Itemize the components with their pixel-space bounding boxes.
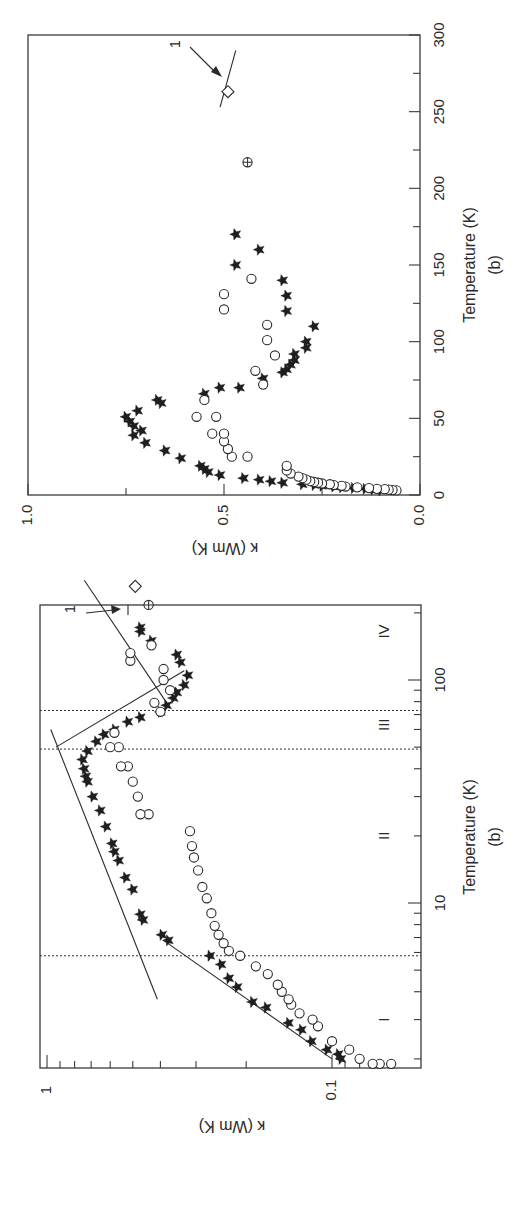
y-axis-label: κ (Wm K) <box>192 540 259 557</box>
star-marker <box>82 745 93 756</box>
annotation-label: 1 <box>62 605 78 613</box>
star-marker <box>230 229 241 240</box>
star-marker <box>308 321 319 332</box>
annotation-arrow <box>190 47 216 73</box>
log-plot: 101000.11 IIIIIIIV 1 Temperature (K) (b)… <box>37 580 503 1135</box>
region-label: III <box>375 718 392 731</box>
circle-marker <box>308 1015 317 1024</box>
temperature-tick-label: 0 <box>430 491 447 499</box>
circle-marker <box>387 1059 396 1068</box>
figure: 0501001502002503000.00.51.0 1 Temperatur… <box>0 0 512 1208</box>
reference-line <box>220 50 236 107</box>
circle-marker <box>128 777 137 786</box>
circle-marker <box>210 921 219 930</box>
circle-marker <box>147 641 156 650</box>
region-label: II <box>375 832 392 840</box>
circle-marker <box>165 686 174 695</box>
star-marker <box>281 290 292 301</box>
star-marker <box>127 884 138 895</box>
region-label: I <box>375 1018 392 1022</box>
star-marker <box>281 305 292 316</box>
circle-marker <box>126 649 135 658</box>
temperature-tick-label: 10 <box>431 895 448 912</box>
tick-labels: 101000.11 <box>37 667 448 1100</box>
circle-marker <box>345 1045 354 1054</box>
x-axis-label: Temperature (K) <box>461 207 478 323</box>
temperature-tick-label: 250 <box>430 99 447 124</box>
circle-marker <box>247 274 256 283</box>
circle-marker <box>150 698 159 707</box>
region-label: IV <box>375 624 392 638</box>
data-points <box>77 580 396 1068</box>
star-marker <box>253 244 264 255</box>
circle-marker <box>364 484 373 493</box>
circle-marker <box>156 707 165 716</box>
fit-lines <box>51 580 332 1059</box>
annotation-label: 1 <box>167 40 183 48</box>
fit-line <box>51 729 158 999</box>
star-marker <box>253 474 264 485</box>
circle-marker <box>207 909 216 918</box>
circle-marker <box>110 728 119 737</box>
star-marker <box>230 259 241 270</box>
circle-marker <box>208 429 217 438</box>
circle-marker <box>355 1054 364 1063</box>
star-marker <box>135 712 146 724</box>
circle-marker <box>194 866 203 875</box>
star-marker <box>122 716 133 727</box>
circle-marker <box>263 969 272 978</box>
star-marker <box>87 791 98 802</box>
axis-ticks <box>47 613 421 1068</box>
temperature-tick-label: 50 <box>430 410 447 427</box>
circle-marker <box>251 366 260 375</box>
circle-marker <box>368 1059 377 1068</box>
circle-marker <box>273 980 282 989</box>
y-axis-label: κ (Wm K) <box>199 1118 266 1135</box>
kappa-tick-label: 0.5 <box>214 505 231 526</box>
star-marker <box>94 805 105 816</box>
circle-marker <box>327 1037 336 1046</box>
star-marker <box>223 973 234 984</box>
circle-marker <box>116 762 125 771</box>
circle-marker <box>270 351 279 360</box>
region-boundaries <box>40 710 421 955</box>
panel-label: (b) <box>486 255 503 275</box>
star-marker <box>100 821 111 832</box>
circle-marker <box>187 841 196 850</box>
temperature-tick-label: 100 <box>430 329 447 354</box>
circle-marker <box>353 483 362 492</box>
linear-plot: 0501001502002503000.00.51.0 1 Temperatur… <box>18 22 503 557</box>
plot-frame <box>40 605 421 1068</box>
fit-line <box>84 580 170 708</box>
star-marker <box>231 981 242 993</box>
data-points <box>120 86 401 496</box>
circle-marker <box>106 743 115 752</box>
circle-marker <box>251 962 260 971</box>
arrow-head-icon <box>211 66 222 77</box>
circle-marker <box>202 894 211 903</box>
x-axis-label: Temperature (K) <box>461 779 478 895</box>
star-marker <box>265 476 276 487</box>
arrow-head-icon <box>111 605 121 614</box>
circle-marker <box>219 305 228 314</box>
star-marker <box>132 405 143 416</box>
star-marker <box>260 1002 271 1013</box>
star-marker <box>113 855 124 866</box>
star-marker <box>283 1017 294 1028</box>
circle-marker <box>263 336 272 345</box>
circle-marker <box>282 461 291 470</box>
star-marker <box>238 472 249 483</box>
star-marker <box>215 959 226 970</box>
kappa-tick-label: 1.0 <box>18 505 35 526</box>
star-marker <box>277 477 288 488</box>
star-marker <box>156 929 167 940</box>
temperature-tick-label: 150 <box>430 252 447 277</box>
circle-marker <box>200 395 209 404</box>
star-marker <box>140 437 151 448</box>
star-marker <box>78 763 89 774</box>
star-marker <box>214 382 225 393</box>
circle-marker <box>136 810 145 819</box>
circle-marker <box>284 995 293 1004</box>
star-marker <box>214 469 225 480</box>
circle-marker <box>185 827 194 836</box>
